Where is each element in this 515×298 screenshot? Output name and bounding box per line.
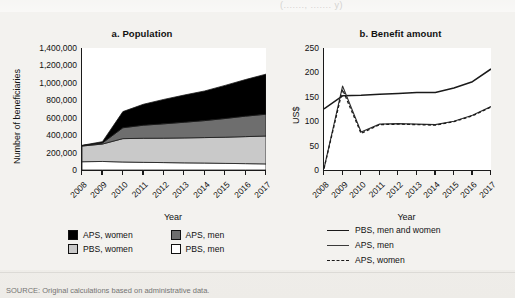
y-axis-tick-label: 1,200,000 (39, 60, 81, 70)
cropped-header-text: (......., ....... y) (280, 0, 515, 11)
x-axis-tick-mark (360, 171, 361, 175)
line-series-aps-men (324, 86, 491, 168)
legend-label: APS, men (186, 230, 225, 240)
y-axis-tick-label: 600,000 (46, 113, 81, 123)
legend-label: PBS, women (83, 244, 133, 254)
figure-divider (0, 272, 515, 273)
panel-population: a. Population 0200,000400,000600,000800,… (0, 12, 285, 270)
legend-item-aps-women: APS, women (68, 230, 171, 240)
panel-b-x-axis-label: Year (323, 212, 490, 222)
y-axis-tick-label: 200 (305, 67, 323, 77)
x-axis-tick-label: 2016 (455, 179, 479, 203)
y-axis-tick-label: 50 (310, 141, 323, 151)
benefit-amount-line-chart (324, 48, 491, 170)
x-axis-tick-label: 2012 (381, 179, 405, 203)
x-axis-tick-mark (342, 171, 343, 175)
x-axis-tick-mark (265, 171, 266, 175)
x-axis-tick-mark (471, 171, 472, 175)
x-axis-tick-label: 2014 (418, 179, 442, 203)
y-axis-tick-label: 0 (314, 165, 323, 175)
legend-label: APS, women (355, 255, 405, 265)
x-axis-tick-label: 2013 (167, 179, 191, 203)
x-axis-tick-mark (323, 171, 324, 175)
y-axis-tick-label: 800,000 (46, 95, 81, 105)
figure-container: a. Population 0200,000400,000600,000800,… (0, 12, 515, 270)
x-axis-tick-mark (416, 171, 417, 175)
panel-b-x-axis: 2008200920102011201220132014201520162017 (323, 171, 490, 211)
x-axis-tick-label: 2015 (208, 179, 232, 203)
legend-item-pbs-women: PBS, women (68, 244, 171, 254)
x-axis-tick-label: 2011 (362, 179, 386, 203)
x-axis-tick-mark (245, 171, 246, 175)
x-axis-tick-label: 2010 (105, 179, 129, 203)
legend-label: APS, men (355, 240, 394, 250)
y-axis-tick-label: 200,000 (46, 148, 81, 158)
x-axis-tick-mark (397, 171, 398, 175)
panel-b-y-axis-label: US$ (291, 106, 301, 124)
legend-swatch-black (68, 230, 78, 240)
x-axis-tick-mark (453, 171, 454, 175)
x-axis-tick-label: 2015 (436, 179, 460, 203)
x-axis-tick-label: 2009 (85, 179, 109, 203)
x-axis-tick-mark (163, 171, 164, 175)
legend-line-dashed-icon (327, 256, 349, 264)
x-axis-tick-mark (81, 171, 82, 175)
legend-label: PBS, men and women (355, 225, 441, 235)
legend-line-solid-thin-icon (327, 241, 349, 249)
x-axis-tick-mark (101, 171, 102, 175)
population-stacked-area-chart (82, 48, 266, 170)
legend-item-pbs-men: PBS, men (171, 244, 274, 254)
y-axis-tick-label: 100 (305, 116, 323, 126)
legend-item-aps-men: APS, men (171, 230, 274, 240)
x-axis-tick-mark (142, 171, 143, 175)
source-note: SOURCE: Original calculations based on a… (6, 286, 326, 296)
legend-swatch-dark-gray (171, 230, 181, 240)
x-axis-tick-mark (224, 171, 225, 175)
x-axis-tick-label: 2008 (65, 179, 89, 203)
x-axis-tick-label: 2016 (228, 179, 252, 203)
panel-b-plot-area (323, 48, 491, 171)
x-axis-tick-label: 2017 (249, 179, 273, 203)
legend-swatch-light-gray (68, 244, 78, 254)
legend-item-aps-women: APS, women (327, 255, 515, 265)
panel-benefit-amount: b. Benefit amount 050100150200250 US$ 20… (285, 12, 515, 270)
legend-line-solid-thick-icon (327, 226, 349, 234)
y-axis-tick-label: 1,000,000 (39, 78, 81, 88)
x-axis-tick-mark (204, 171, 205, 175)
x-axis-tick-label: 2010 (344, 179, 368, 203)
panel-a-plot-area (81, 48, 266, 171)
x-axis-tick-mark (379, 171, 380, 175)
x-axis-tick-label: 2012 (146, 179, 170, 203)
legend-item-aps-men: APS, men (327, 240, 515, 250)
panel-a-y-axis-label: Number of beneficiaries (12, 69, 22, 164)
panel-b-legend: PBS, men and women APS, men APS, women (327, 225, 515, 270)
y-axis-tick-label: 150 (305, 92, 323, 102)
legend-label: PBS, men (186, 244, 225, 254)
y-axis-tick-label: 250 (305, 43, 323, 53)
legend-item-pbs-men-and-women: PBS, men and women (327, 225, 515, 235)
y-axis-tick-label: 1,400,000 (39, 43, 81, 53)
x-axis-tick-label: 2014 (187, 179, 211, 203)
y-axis-tick-label: 0 (72, 165, 81, 175)
x-axis-tick-label: 2009 (325, 179, 349, 203)
legend-swatch-white (171, 244, 181, 254)
x-axis-tick-mark (490, 171, 491, 175)
x-axis-tick-mark (183, 171, 184, 175)
panel-a-x-axis-label: Year (81, 212, 265, 222)
legend-label: APS, women (83, 230, 133, 240)
x-axis-tick-label: 2011 (126, 179, 150, 203)
x-axis-tick-label: 2017 (474, 179, 498, 203)
x-axis-tick-mark (434, 171, 435, 175)
panel-a-x-axis: 2008200920102011201220132014201520162017 (81, 171, 265, 211)
x-axis-tick-mark (122, 171, 123, 175)
x-axis-tick-label: 2013 (399, 179, 423, 203)
y-axis-tick-label: 400,000 (46, 130, 81, 140)
panel-a-title: a. Population (22, 28, 262, 39)
panel-a-legend: APS, women APS, men PBS, women PBS, men (68, 230, 273, 258)
x-axis-tick-label: 2008 (307, 179, 331, 203)
panel-b-title: b. Benefit amount (293, 28, 508, 39)
